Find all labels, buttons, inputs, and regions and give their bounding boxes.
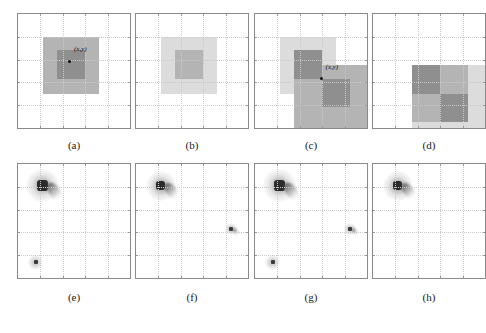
panel-f-axes	[135, 163, 249, 279]
panel-d-blocks	[373, 14, 485, 128]
block-inner-square	[175, 50, 203, 79]
peak-core	[271, 260, 275, 264]
caption-d: (d)	[372, 140, 486, 151]
block-dark-block-upper-left	[294, 50, 322, 79]
panel-d-axes	[372, 13, 486, 129]
caption-f: (f)	[135, 292, 249, 303]
panel-a: (x,y)	[17, 13, 131, 129]
panel-e-axes	[17, 163, 131, 279]
panel-h-spots	[373, 164, 485, 278]
panel-e	[17, 163, 131, 279]
panel-c-blocks	[255, 14, 367, 128]
block-inner-square	[57, 50, 85, 79]
caption-e: (e)	[17, 292, 131, 303]
panel-g	[254, 163, 368, 279]
panel-h-axes	[372, 163, 486, 279]
point-coordinate-label: (x,y)	[326, 64, 339, 71]
block-dark-block-lower-right	[322, 79, 350, 108]
panel-g-spots	[255, 164, 367, 278]
block-checker-mid-lower-left	[412, 94, 440, 123]
caption-c: (c)	[254, 140, 368, 151]
panel-b-blocks	[136, 14, 248, 128]
block-left-light-square	[280, 65, 295, 94]
panel-h	[372, 163, 486, 279]
panel-g-axes	[254, 163, 368, 279]
peak-core	[34, 260, 38, 264]
panel-a-blocks	[18, 14, 130, 128]
panel-b-axes	[135, 13, 249, 129]
block-checker-mid-upper-right	[440, 65, 468, 94]
panel-f-spots	[136, 164, 248, 278]
block-checker-dark-upper-left	[412, 65, 440, 94]
panel-c-axes: (x,y)	[254, 13, 368, 129]
caption-g: (g)	[254, 292, 368, 303]
panel-d	[372, 13, 486, 129]
block-checker-dark-lower-right	[440, 94, 468, 123]
panel-e-spots	[18, 164, 130, 278]
panel-a-axes: (x,y)	[17, 13, 131, 129]
caption-a: (a)	[17, 140, 131, 151]
panel-b	[135, 13, 249, 129]
point-coordinate-label: (x,y)	[74, 46, 87, 53]
panel-c: (x,y)	[254, 13, 368, 129]
caption-h: (h)	[372, 292, 486, 303]
caption-b: (b)	[135, 140, 249, 151]
panel-f	[135, 163, 249, 279]
